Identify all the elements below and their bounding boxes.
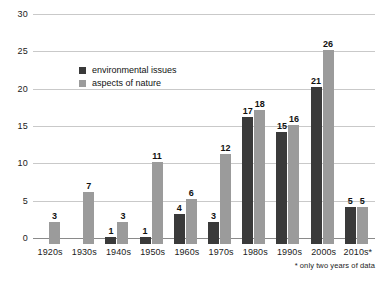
- bar: 18: [254, 110, 265, 244]
- y-axis-tick-label: 30: [4, 10, 28, 19]
- bar-value-label: 1: [108, 227, 113, 236]
- bar: 5: [345, 207, 356, 244]
- legend-item: aspects of nature: [79, 77, 177, 90]
- bar-value-label: 17: [243, 107, 253, 116]
- bar-value-label: 3: [120, 212, 125, 221]
- bar: 15: [276, 132, 287, 244]
- bar-value-label: 12: [220, 144, 230, 153]
- bar-value-label: 11: [152, 152, 162, 161]
- bar-group: 111: [136, 14, 170, 244]
- y-axis-tick-label: 10: [4, 159, 28, 168]
- bar-value-label: 15: [277, 122, 287, 131]
- footnote: * only two years of data: [295, 262, 375, 270]
- bar: 12: [220, 154, 231, 244]
- bar-value-label: 21: [311, 77, 321, 86]
- y-axis-tick-label: 20: [4, 85, 28, 94]
- bar: 26: [323, 50, 334, 244]
- bar-value-label: 3: [52, 212, 57, 221]
- bar-value-label: 3: [211, 212, 216, 221]
- x-axis-tick-label: 2010s*: [338, 248, 378, 257]
- y-axis-tick-label: 25: [4, 47, 28, 56]
- bar-group: 3: [33, 14, 67, 244]
- legend-item: environmental issues: [79, 64, 177, 77]
- bar-value-label: 5: [348, 197, 353, 206]
- bar: 5: [357, 207, 368, 244]
- legend-label: environmental issues: [92, 66, 177, 75]
- legend-swatch-icon: [79, 80, 86, 87]
- bar-value-label: 4: [177, 204, 182, 213]
- bar: 17: [242, 117, 253, 244]
- y-axis-tick-label: 0: [4, 234, 28, 243]
- legend: environmental issuesaspects of nature: [79, 64, 177, 90]
- bar-value-label: 16: [289, 115, 299, 124]
- bars-layer: 37131114631217181516212655: [33, 14, 375, 244]
- bar-group: 1516: [272, 14, 306, 244]
- bar: 6: [186, 199, 197, 244]
- bar-chart: 051015202530 37131114631217181516212655 …: [0, 0, 388, 283]
- y-axis-tick-label: 5: [4, 197, 28, 206]
- bar-group: 1718: [238, 14, 272, 244]
- bar-value-label: 5: [360, 197, 365, 206]
- bar: 21: [311, 87, 322, 244]
- bar-group: 13: [101, 14, 135, 244]
- y-axis-tick-label: 15: [4, 122, 28, 131]
- bar-value-label: 1: [143, 227, 148, 236]
- bar: 3: [117, 222, 128, 244]
- bar: 7: [83, 192, 94, 244]
- bar-group: 7: [67, 14, 101, 244]
- bar: 1: [140, 237, 151, 244]
- bar: 11: [152, 162, 163, 244]
- bar-value-label: 7: [86, 182, 91, 191]
- bar-value-label: 6: [189, 189, 194, 198]
- bar-group: 2126: [307, 14, 341, 244]
- bar-value-label: 18: [255, 100, 265, 109]
- bar: 3: [208, 222, 219, 244]
- legend-swatch-icon: [79, 67, 86, 74]
- y-axis: 051015202530: [0, 14, 28, 250]
- bar-group: 312: [204, 14, 238, 244]
- bar: 1: [105, 237, 116, 244]
- bar: 4: [174, 214, 185, 244]
- bar-group: 46: [170, 14, 204, 244]
- bar: 3: [49, 222, 60, 244]
- bar-group: 55: [341, 14, 375, 244]
- bar-value-label: 26: [323, 40, 333, 49]
- bar: 16: [288, 125, 299, 244]
- legend-label: aspects of nature: [92, 79, 161, 88]
